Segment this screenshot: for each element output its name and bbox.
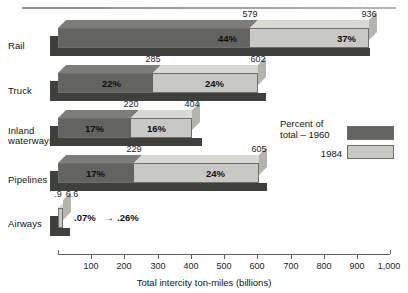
bar-inland-top-face-1960 bbox=[58, 110, 139, 118]
x-axis-tick-500 bbox=[224, 255, 225, 259]
legend-swatch-1984 bbox=[347, 145, 394, 159]
x-axis-title: Total intercity ton-miles (billions) bbox=[0, 277, 408, 288]
bar-rail-top-face-1960 bbox=[58, 20, 258, 28]
legend-label-1984: 1984 bbox=[300, 148, 342, 159]
pct-label-airways-1984: .26% bbox=[117, 212, 139, 223]
x-axis-tick-600 bbox=[257, 255, 258, 259]
bar-pipelines-top-face-1960 bbox=[58, 155, 142, 163]
pct-label-airways-1960: .07% bbox=[74, 212, 96, 223]
bar-inland-top-face-1984 bbox=[131, 110, 200, 118]
category-label-pipelines: Pipelines bbox=[8, 175, 47, 186]
value-label-truck-1984: 602 bbox=[238, 54, 278, 64]
category-label-truck: Truck bbox=[8, 86, 32, 97]
x-axis-tick-900 bbox=[357, 255, 358, 259]
x-axis-tick-100 bbox=[91, 255, 92, 259]
category-label-inland-line2: waterways bbox=[8, 136, 54, 147]
bar-rail-top-face-1984 bbox=[250, 20, 377, 28]
airways-arrow-icon: → bbox=[104, 213, 114, 223]
pct-label-rail-1960: 44% bbox=[218, 33, 237, 44]
value-label-inland-1984: 404 bbox=[172, 99, 212, 109]
value-label-rail-1984: 936 bbox=[349, 9, 389, 19]
top-rule bbox=[22, 7, 396, 9]
x-axis-tick-300 bbox=[158, 255, 159, 259]
bar-pipelines-top-face-1984 bbox=[134, 155, 267, 163]
category-label-rail: Rail bbox=[8, 41, 25, 52]
bar-truck-top-face-1984 bbox=[153, 65, 266, 73]
legend-title-line1: Percent of bbox=[280, 118, 350, 129]
x-axis-tick-1000 bbox=[390, 250, 391, 254]
pct-label-pipelines-1960: 17% bbox=[86, 168, 105, 179]
value-label-truck-1960: 285 bbox=[133, 54, 173, 64]
value-label-pipelines-1960: 229 bbox=[114, 144, 154, 154]
category-label-airways: Airways bbox=[8, 219, 42, 230]
x-axis-label-1000: 1,000 bbox=[369, 261, 408, 271]
legend-title-line2: total – 1960 bbox=[280, 129, 350, 140]
pct-label-truck-1984: 24% bbox=[205, 78, 224, 89]
value-label-inland-1960: 220 bbox=[111, 99, 151, 109]
value-label-pipelines-1984: 605 bbox=[239, 144, 279, 154]
bar-truck-top-face-1960 bbox=[58, 65, 161, 73]
value-label-airways-1984: 6.6 bbox=[62, 189, 82, 199]
pct-label-rail-1984: 37% bbox=[337, 33, 356, 44]
pct-label-pipelines-1984: 24% bbox=[206, 168, 225, 179]
pct-label-inland-1960: 17% bbox=[85, 123, 104, 134]
x-axis-tick-700 bbox=[291, 255, 292, 259]
bar-pipelines-segment-1984 bbox=[134, 163, 259, 183]
value-label-rail-1960: 579 bbox=[230, 9, 270, 19]
pct-label-truck-1960: 22% bbox=[102, 78, 121, 89]
x-axis-tick-200 bbox=[124, 255, 125, 259]
legend-swatch-1960 bbox=[347, 126, 394, 140]
pct-label-inland-1984: 16% bbox=[147, 123, 166, 134]
chart-figure: Rail Truck Inland waterways Pipelines Ai… bbox=[0, 0, 408, 293]
x-axis-tick-800 bbox=[324, 255, 325, 259]
x-axis-tick-0 bbox=[58, 250, 59, 254]
x-axis-tick-400 bbox=[191, 255, 192, 259]
